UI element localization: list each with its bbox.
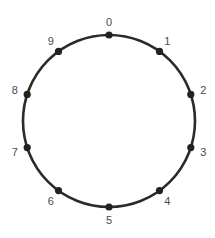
node-label: 6 <box>48 195 54 207</box>
node-4: 4 <box>156 187 170 207</box>
node-dot <box>187 144 194 151</box>
node-dot <box>156 187 163 194</box>
node-dot <box>55 48 62 55</box>
ring-circle <box>23 35 195 207</box>
node-label: 5 <box>106 214 112 226</box>
node-dot <box>105 203 112 210</box>
node-0: 0 <box>105 16 112 39</box>
node-label: 1 <box>164 35 170 47</box>
node-label: 3 <box>200 146 206 158</box>
node-dot <box>55 187 62 194</box>
node-9: 9 <box>48 35 62 55</box>
node-6: 6 <box>48 187 62 207</box>
node-dot <box>105 31 112 38</box>
node-dot <box>156 48 163 55</box>
node-label: 0 <box>106 16 112 28</box>
node-label: 8 <box>12 84 18 96</box>
node-label: 2 <box>200 84 206 96</box>
node-1: 1 <box>156 35 170 55</box>
node-7: 7 <box>12 144 31 158</box>
node-label: 7 <box>12 146 18 158</box>
node-8: 8 <box>12 84 31 98</box>
node-dot <box>24 144 31 151</box>
node-group: 0123456789 <box>12 16 207 226</box>
node-5: 5 <box>105 203 112 226</box>
node-3: 3 <box>187 144 206 158</box>
circular-ring-diagram: 0123456789 <box>0 0 215 238</box>
node-label: 4 <box>164 195 170 207</box>
node-2: 2 <box>187 84 206 98</box>
node-dot <box>24 91 31 98</box>
node-dot <box>187 91 194 98</box>
node-label: 9 <box>48 35 54 47</box>
